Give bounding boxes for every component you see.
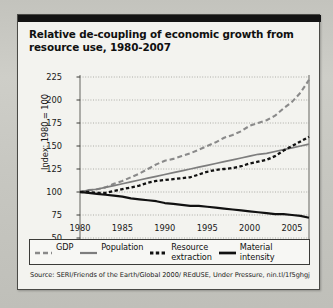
- legend-label-material-intensity: Material intensity: [240, 243, 275, 262]
- legend-label-resource-extraction: Resource extraction: [171, 243, 212, 262]
- x-tick-label: 1985: [112, 223, 133, 233]
- x-tick-label: 1990: [154, 223, 175, 233]
- x-tick-label: 1995: [197, 223, 218, 233]
- legend-swatch-gdp: [35, 243, 52, 254]
- legend-label-gdp: GDP: [56, 243, 73, 253]
- y-tick-label: 175: [36, 118, 62, 128]
- y-tick-label: 150: [36, 141, 62, 151]
- y-tick-label: 200: [36, 95, 62, 105]
- plot-area: Index: 1980 = 100 2252001751501251007550…: [18, 53, 321, 249]
- legend-item-gdp: GDP: [35, 243, 73, 254]
- x-tick-label: 2005: [281, 223, 302, 233]
- card-top-rule: [18, 15, 321, 22]
- x-tick-label: 1980: [69, 223, 90, 233]
- legend-item-resource-extraction: Resource extraction: [150, 243, 212, 262]
- legend-item-material-intensity: Material intensity: [219, 243, 275, 262]
- source-note: Source: SERI/Friends of the Earth/Global…: [30, 271, 315, 279]
- x-tick-label: 2000: [239, 223, 260, 233]
- chart-plot-svg: [63, 53, 313, 249]
- chart-card: Relative de-coupling of economic growth …: [17, 14, 320, 290]
- legend-swatch-population: [80, 243, 97, 254]
- legend-swatch-material-intensity: [219, 243, 236, 254]
- series-line-material-intensity: [80, 192, 309, 218]
- chart-legend: GDPPopulationResource extractionMaterial…: [29, 239, 310, 265]
- legend-swatch-resource-extraction: [150, 243, 167, 254]
- y-tick-label: 100: [36, 187, 62, 197]
- y-axis-ticks: 2252001751501251007550: [34, 53, 62, 249]
- legend-label-population: Population: [101, 243, 143, 253]
- chart-title: Relative de-coupling of economic growth …: [29, 28, 312, 54]
- y-tick-label: 225: [36, 72, 62, 82]
- legend-item-population: Population: [80, 243, 143, 254]
- screenshot-root: Relative de-coupling of economic growth …: [0, 0, 333, 308]
- y-tick-label: 75: [36, 210, 62, 220]
- y-tick-label: 125: [36, 164, 62, 174]
